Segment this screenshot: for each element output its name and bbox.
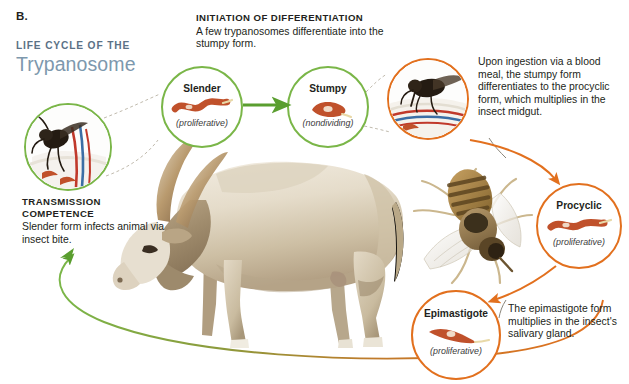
stage-slender-sublabel: (proliferative) (163, 118, 241, 128)
stage-epimastigote-sublabel: (proliferative) (413, 346, 499, 356)
callout-initiation-heading: INITIATION OF DIFFERENTIATION (196, 12, 411, 24)
callout-salivary-body: The epimastigote form multiplies in the … (508, 303, 629, 341)
insect-bite-inset (24, 103, 112, 191)
callout-transmission-heading-line2: COMPETENCE (22, 208, 172, 220)
stage-stumpy-sublabel: (nondividing) (289, 118, 367, 128)
stage-slender-label: Slender (163, 83, 241, 94)
stage-procyclic-label: Procyclic (538, 200, 620, 211)
panel-letter: B. (16, 10, 28, 22)
slender-trypanosome-icon (171, 96, 233, 118)
stage-stumpy-label: Stumpy (289, 83, 367, 94)
tsetse-fly-photograph (396, 163, 544, 295)
leader-ingestion-to-fly (489, 138, 506, 158)
leader-salivary-to-epimastigote (499, 300, 506, 318)
stage-epimastigote[interactable]: Epimastigote (proliferative) (411, 290, 501, 380)
page-title: Trypanosome (16, 53, 136, 76)
callout-ingestion-body: Upon ingestion via a blood meal, the stu… (478, 56, 628, 119)
fly-feeding-illustration-svg (389, 60, 467, 138)
callout-transmission: TRANSMISSION COMPETENCE Slender form inf… (22, 196, 172, 246)
callout-transmission-heading-line1: TRANSMISSION (22, 196, 172, 208)
bite-illustration-svg (26, 105, 110, 189)
callout-transmission-body: Slender form infects animal via insect b… (22, 221, 172, 246)
stumpy-trypanosome-icon (306, 96, 352, 120)
stage-epimastigote-label: Epimastigote (413, 308, 499, 319)
fly-feeding-illustration (389, 60, 467, 138)
insect-bite-illustration (26, 105, 110, 189)
callout-initiation-body: A few trypanosomes differentiate into th… (196, 26, 411, 51)
transmission-arrowhead (60, 248, 74, 262)
callout-initiation: INITIATION OF DIFFERENTIATION A few tryp… (196, 12, 411, 51)
stage-procyclic-sublabel: (proliferative) (538, 237, 620, 247)
title-kicker: LIFE CYCLE OF THE (16, 40, 130, 51)
arrow-procyclic-to-epimastigote (494, 266, 556, 300)
stage-procyclic[interactable]: Procyclic (proliferative) (536, 183, 622, 269)
epimastigote-trypanosome-icon (423, 322, 491, 346)
fly-feeding-inset (387, 58, 469, 140)
arrow-to-procyclic (470, 140, 556, 180)
procyclic-trypanosome-icon (546, 215, 612, 237)
stage-stumpy[interactable]: Stumpy (nondividing) (287, 66, 369, 148)
figure-canvas: Slender (proliferative) Stumpy (nondivid… (0, 0, 629, 384)
stage-slender[interactable]: Slender (proliferative) (161, 66, 243, 148)
